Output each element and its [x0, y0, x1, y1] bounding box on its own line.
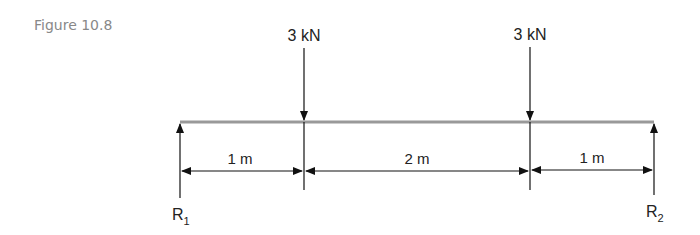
- load-2: 3 kN: [514, 26, 547, 190]
- load-2-label: 3 kN: [514, 26, 547, 43]
- load-1-label: 3 kN: [288, 27, 321, 44]
- span-1-label: 1 m: [227, 150, 252, 167]
- reaction-r2: R2: [646, 124, 664, 224]
- load-1: 3 kN: [288, 27, 321, 190]
- dimension-span-3: 1 m: [532, 149, 652, 170]
- beam-diagram: 3 kN 3 kN R1 R2 1 m 2 m 1 m: [0, 0, 700, 235]
- reaction-r1: R1: [172, 124, 190, 227]
- reaction-r1-label: R1: [172, 206, 190, 227]
- reaction-r2-label: R2: [646, 203, 664, 224]
- dimension-span-2: 2 m: [306, 150, 528, 171]
- dimension-span-1: 1 m: [182, 150, 302, 171]
- span-2-label: 2 m: [404, 150, 429, 167]
- span-3-label: 1 m: [579, 149, 604, 166]
